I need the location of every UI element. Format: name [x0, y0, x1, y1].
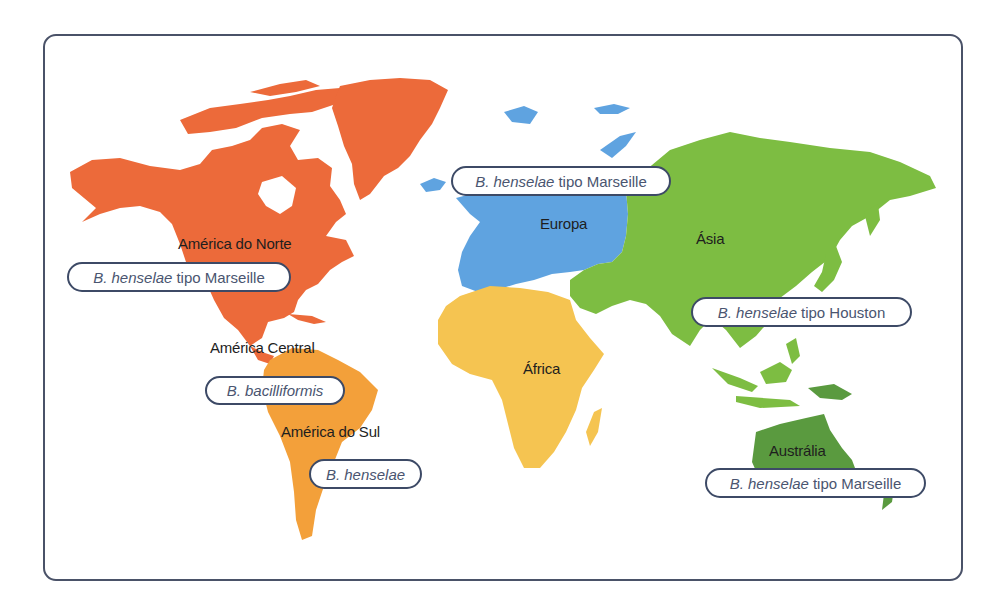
north-america-shape: [70, 78, 448, 364]
annotation-central-america: B. bacilliformis: [205, 376, 345, 405]
species-name: B. henselae: [718, 305, 797, 320]
annotation-asia: B. henselaetipo Houston: [691, 297, 912, 327]
species-type: tipo Marseille: [176, 270, 264, 285]
label-europe: Europa: [540, 216, 587, 231]
species-name: B. henselae: [730, 476, 809, 491]
species-type: tipo Marseille: [813, 476, 901, 491]
annotation-north-america: B. henselaetipo Marseille: [67, 262, 291, 292]
annotation-south-america: B. henselae: [309, 459, 422, 489]
species-type: tipo Marseille: [558, 174, 646, 189]
species-name: B. bacilliformis: [227, 383, 324, 398]
species-name: B. henselae: [93, 270, 172, 285]
annotation-australia: B. henselaetipo Marseille: [705, 468, 926, 498]
label-north-america: América do Norte: [178, 236, 292, 251]
label-central-america: América Central: [210, 340, 315, 355]
species-name: B. henselae: [326, 467, 405, 482]
species-name: B. henselae: [475, 174, 554, 189]
label-australia: Austrália: [769, 443, 826, 458]
label-south-america: América do Sul: [281, 424, 380, 439]
species-type: tipo Houston: [801, 305, 885, 320]
label-africa: África: [523, 361, 560, 376]
label-asia: Ásia: [696, 231, 724, 246]
annotation-europe: B. henselaetipo Marseille: [451, 166, 671, 196]
africa-shape: [438, 286, 604, 468]
